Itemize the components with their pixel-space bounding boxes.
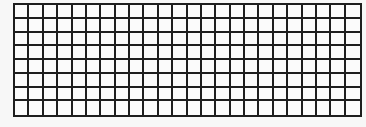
- grid-cell: [87, 74, 101, 88]
- grid-cell: [245, 33, 259, 47]
- grid-cell: [317, 33, 331, 47]
- grid-cell: [15, 46, 29, 60]
- grid-cell: [274, 33, 288, 47]
- grid-cell: [288, 46, 302, 60]
- grid-cell: [87, 46, 101, 60]
- grid-cell: [173, 46, 187, 60]
- grid-cell: [130, 19, 144, 33]
- grid-cell: [44, 19, 58, 33]
- grid-cell: [245, 5, 259, 19]
- grid-cell: [188, 101, 202, 115]
- grid-cell: [188, 46, 202, 60]
- grid-cell: [144, 5, 158, 19]
- grid-cell: [58, 5, 72, 19]
- grid-cell: [202, 74, 216, 88]
- grid-cell: [144, 33, 158, 47]
- grid-cell: [231, 33, 245, 47]
- grid-cell: [130, 74, 144, 88]
- grid-cell: [15, 101, 29, 115]
- grid-cell: [101, 101, 115, 115]
- grid-cell: [73, 88, 87, 102]
- grid-cell: [73, 33, 87, 47]
- grid-cell: [288, 88, 302, 102]
- grid-cell: [87, 33, 101, 47]
- grid-cell: [331, 101, 345, 115]
- grid-cell: [259, 74, 273, 88]
- grid-cell: [245, 46, 259, 60]
- grid-cell: [259, 33, 273, 47]
- grid-cell: [116, 74, 130, 88]
- grid-cell: [15, 19, 29, 33]
- grid-cell: [202, 60, 216, 74]
- grid-cell: [159, 74, 173, 88]
- grid-cell: [58, 60, 72, 74]
- grid-cell: [116, 60, 130, 74]
- grid-cell: [87, 101, 101, 115]
- grid-cell: [331, 88, 345, 102]
- grid-cell: [101, 19, 115, 33]
- grid-cell: [44, 101, 58, 115]
- grid-cell: [116, 88, 130, 102]
- grid-cell: [245, 60, 259, 74]
- grid-cell: [188, 19, 202, 33]
- grid-cell: [216, 46, 230, 60]
- grid-cell: [87, 60, 101, 74]
- grid-cell: [231, 101, 245, 115]
- grid-cell: [44, 46, 58, 60]
- grid-cell: [58, 74, 72, 88]
- grid-cell: [116, 101, 130, 115]
- grid-cell: [130, 33, 144, 47]
- grid-cell: [144, 60, 158, 74]
- grid-cell: [73, 101, 87, 115]
- grid-cell: [29, 33, 43, 47]
- grid-cell: [144, 74, 158, 88]
- grid-cell: [274, 19, 288, 33]
- grid-cell: [245, 101, 259, 115]
- grid-cell: [216, 5, 230, 19]
- grid-cell: [303, 74, 317, 88]
- grid-cell: [15, 60, 29, 74]
- grid-cell: [130, 60, 144, 74]
- grid-cell: [317, 101, 331, 115]
- grid-cell: [303, 101, 317, 115]
- grid-cell: [173, 19, 187, 33]
- grid-cell: [144, 19, 158, 33]
- grid-cell: [44, 60, 58, 74]
- grid-cell: [29, 19, 43, 33]
- grid-cell: [259, 101, 273, 115]
- grid-cell: [245, 19, 259, 33]
- grid-cell: [116, 46, 130, 60]
- grid-cell: [259, 46, 273, 60]
- grid-cell: [231, 5, 245, 19]
- grid-cell: [259, 5, 273, 19]
- grid-cell: [303, 46, 317, 60]
- grid-cell: [346, 33, 360, 47]
- grid-cell: [202, 46, 216, 60]
- grid-cell: [15, 33, 29, 47]
- grid-cell: [346, 19, 360, 33]
- grid-cell: [331, 60, 345, 74]
- grid-cell: [159, 60, 173, 74]
- grid-cell: [116, 5, 130, 19]
- grid-cell: [288, 101, 302, 115]
- grid-cell: [73, 19, 87, 33]
- grid-cell: [101, 88, 115, 102]
- grid-cell: [73, 46, 87, 60]
- grid-cell: [317, 74, 331, 88]
- grid-cell: [188, 5, 202, 19]
- grid-cell: [317, 19, 331, 33]
- grid-cell: [188, 74, 202, 88]
- grid-cell: [44, 88, 58, 102]
- grid-cell: [144, 88, 158, 102]
- grid-cell: [101, 46, 115, 60]
- grid-cell: [245, 74, 259, 88]
- grid-cell: [73, 74, 87, 88]
- grid-cell: [331, 46, 345, 60]
- grid-cell: [317, 46, 331, 60]
- grid-cell: [101, 5, 115, 19]
- grid-cell: [202, 5, 216, 19]
- grid-cell: [303, 88, 317, 102]
- grid-cell: [346, 5, 360, 19]
- grid-cell: [58, 46, 72, 60]
- grid-cell: [29, 5, 43, 19]
